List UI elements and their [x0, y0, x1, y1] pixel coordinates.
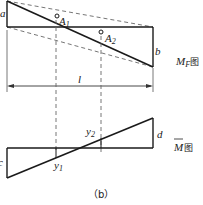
label-d: d [157, 128, 163, 140]
label-a: a [0, 7, 6, 19]
label-a1: A1 [58, 15, 70, 29]
caption: （b） [88, 189, 114, 200]
label-y2: y2 [85, 125, 95, 139]
mf-diagram: a A1 A2 b MF图 [0, 1, 199, 69]
label-y1: y1 [53, 159, 63, 173]
label-c: c [0, 156, 3, 168]
dashed-top-line [7, 1, 153, 27]
label-a2: A2 [104, 32, 116, 46]
m-bar-diagram: c y1 y2 d M图 [0, 118, 193, 178]
centroid-a2-marker [99, 30, 103, 34]
graph-multiplication-diagram: a A1 A2 b MF图 l c y1 y2 d M图 （b） [0, 0, 203, 205]
label-b: b [155, 45, 161, 57]
mf-diagonal [7, 1, 153, 67]
arrow-right-icon [146, 84, 153, 88]
mbar-title: M图 [173, 141, 193, 153]
dashed-bottom-line [7, 27, 153, 67]
arrow-left-icon [7, 84, 14, 88]
mf-title: MF图 [175, 55, 199, 69]
label-l: l [78, 73, 81, 85]
